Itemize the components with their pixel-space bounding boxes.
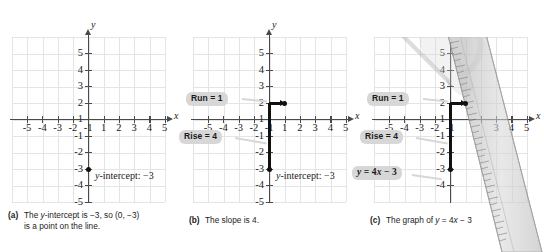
point-y-intercept — [448, 167, 453, 172]
run-callout: Run = 1 — [186, 92, 228, 106]
point-second — [463, 101, 468, 106]
x-axis-label-c: x — [536, 110, 540, 121]
y-tick-label: -4 — [65, 179, 83, 190]
y-tick-label: -4 — [427, 179, 445, 190]
caption-letter-b: (b) — [189, 215, 200, 225]
y-tick-label: 3 — [429, 80, 445, 91]
y-tick-label: -3 — [427, 163, 445, 174]
rise-segment — [449, 103, 452, 169]
caption-letter-a: (a) — [8, 210, 18, 220]
caption-c-line1: The graph of y = 4x − 3 — [386, 215, 472, 225]
rise-segment — [268, 103, 271, 169]
y-axis-label-a: y — [91, 19, 95, 30]
y-tick-label: 4 — [429, 64, 445, 75]
y-tick-label: -5 — [65, 196, 83, 207]
point-y-intercept — [267, 167, 272, 172]
panel-b: x y -5 -4 -3 -2 -1 1 2 3 4 5 5 4 3 2 1 -… — [181, 0, 363, 248]
caption-b-line1: The slope is 4. — [205, 215, 259, 225]
y-axis-label-b: y — [272, 19, 276, 30]
equation-callout: y = 4x − 3 — [352, 166, 402, 180]
point-y-intercept — [86, 167, 91, 172]
plot-area-c: x -5 -4 -3 -2 -1 3 4 5 5 4 3 2 1 -1 -2 -… — [374, 37, 527, 202]
plot-area-a: x y -5 -4 -3 -2 -1 1 2 3 4 5 5 4 3 2 1 -… — [12, 37, 165, 202]
panel-a: x y -5 -4 -3 -2 -1 1 2 3 4 5 5 4 3 2 1 -… — [0, 0, 182, 248]
caption-letter-c: (c) — [370, 215, 380, 225]
x-axis-label-b: x — [355, 110, 359, 121]
caption-a: (a) The y-intercept is −3, so (0, −3) is… — [8, 210, 180, 232]
y-tick-label: -4 — [246, 179, 264, 190]
panel-c: x -5 -4 -3 -2 -1 3 4 5 5 4 3 2 1 -1 -2 -… — [362, 0, 544, 248]
caption-b: (b) The slope is 4. — [189, 215, 361, 226]
point-second — [282, 101, 287, 106]
y-tick-label: -3 — [246, 163, 264, 174]
run-callout: Run = 1 — [367, 92, 409, 106]
plot-area-b: x y -5 -4 -3 -2 -1 1 2 3 4 5 5 4 3 2 1 -… — [193, 37, 346, 202]
caption-a-line1: The y-intercept is −3, so (0, −3) — [24, 210, 139, 220]
x-tick-label: 5 — [516, 122, 538, 133]
y-tick-label: -2 — [427, 146, 445, 157]
y-intercept-annotation: y-intercept: −3 — [276, 170, 335, 181]
caption-a-line2: is a point on the line. — [24, 221, 100, 231]
y-tick-label: -1 — [65, 130, 83, 141]
rise-callout: Rise = 4 — [360, 130, 403, 144]
caption-c: (c) The graph of y = 4x − 3 — [370, 215, 542, 226]
y-tick-label: 3 — [67, 80, 83, 91]
x-axis-label-a: x — [174, 110, 178, 121]
y-tick-label: 4 — [248, 64, 264, 75]
y-tick-label: 5 — [248, 47, 264, 58]
x-tick-label: 5 — [154, 122, 176, 133]
y-tick-label: -3 — [65, 163, 83, 174]
y-tick-label: 2 — [67, 97, 83, 108]
y-tick-label: 1 — [248, 113, 264, 124]
y-tick-label: 1 — [429, 113, 445, 124]
y-tick-label: 5 — [429, 47, 445, 58]
y-tick-label: -5 — [246, 196, 264, 207]
y-tick-label: 5 — [67, 47, 83, 58]
x-tick-label: 5 — [335, 122, 357, 133]
y-tick-label: -2 — [246, 146, 264, 157]
y-intercept-annotation: y-intercept: −3 — [95, 170, 154, 181]
y-tick-label: 3 — [248, 80, 264, 91]
y-tick-label: 1 — [67, 113, 83, 124]
y-tick-label: 4 — [67, 64, 83, 75]
rise-callout: Rise = 4 — [179, 130, 222, 144]
y-tick-label: -2 — [65, 146, 83, 157]
